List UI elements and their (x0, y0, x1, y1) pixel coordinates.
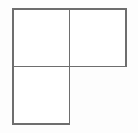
figure-canvas (0, 0, 138, 133)
top-left-square-fill (13, 9, 70, 67)
bottom-left-square-fill (13, 67, 70, 125)
top-right-square-fill (70, 9, 127, 67)
polyomino-figure (0, 0, 138, 133)
